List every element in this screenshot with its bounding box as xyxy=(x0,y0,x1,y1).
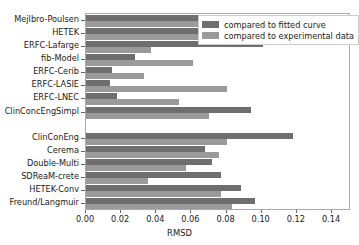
y-tick-label: HETEK xyxy=(0,28,79,37)
bar-experimental xyxy=(86,113,209,119)
chart-legend: compared to fitted curve compared to exp… xyxy=(198,15,359,45)
bar-group xyxy=(86,178,350,184)
x-tick-label: 0.02 xyxy=(100,214,140,224)
y-tick-label: Mejlbro-Poulsen xyxy=(0,15,79,24)
bar-group xyxy=(86,152,350,158)
bar-experimental xyxy=(86,139,227,145)
bar-experimental xyxy=(86,73,144,79)
bar-group xyxy=(86,191,350,197)
legend-swatch-experimental-icon xyxy=(202,32,219,39)
x-tick-mark xyxy=(226,210,227,213)
x-tick-mark xyxy=(85,210,86,213)
y-tick-label: ERFC-Cerib xyxy=(0,67,79,76)
y-tick-label: ClinConcEngSimpl xyxy=(0,107,79,116)
bar-experimental xyxy=(86,60,193,66)
legend-entry-experimental: compared to experimental data xyxy=(202,30,354,41)
bar-experimental xyxy=(86,86,227,92)
bar-group xyxy=(86,73,350,79)
bar-group xyxy=(86,99,350,105)
bar-experimental xyxy=(86,165,186,171)
y-tick-label: ERFC-LNEC xyxy=(0,93,79,102)
bar-experimental xyxy=(86,21,216,27)
bar-group xyxy=(86,165,350,171)
legend-swatch-fitted-icon xyxy=(202,21,219,28)
y-tick-label: ClinConEng xyxy=(0,133,79,142)
y-tick-label: Freund/Langmuir xyxy=(0,198,79,207)
y-tick-label: ERFC-Lafarge xyxy=(0,41,79,50)
x-axis-title: RMSD xyxy=(0,228,359,238)
bar-experimental xyxy=(86,47,151,53)
x-tick-mark xyxy=(261,210,262,213)
y-tick-label: fib-Model xyxy=(0,54,79,63)
legend-entry-fitted: compared to fitted curve xyxy=(202,19,354,30)
bar-group xyxy=(86,47,350,53)
x-tick-label: 0.04 xyxy=(135,214,175,224)
y-tick-label: Cerema xyxy=(0,146,79,155)
y-tick-label: SDReaM-crete xyxy=(0,172,79,181)
x-tick-mark xyxy=(296,210,297,213)
x-tick-label: 0.14 xyxy=(311,214,351,224)
y-tick-label: Double-Multi xyxy=(0,159,79,168)
y-tick-label: ERFC-LASIE xyxy=(0,80,79,89)
x-tick-mark xyxy=(120,210,121,213)
x-tick-mark xyxy=(331,210,332,213)
legend-label-fitted: compared to fitted curve xyxy=(224,20,326,30)
bar-group xyxy=(86,86,350,92)
x-tick-label: 0.06 xyxy=(170,214,210,224)
x-tick-mark xyxy=(190,210,191,213)
x-tick-mark xyxy=(155,210,156,213)
rmsd-bar-chart: Mejlbro-PoulsenHETEKERFC-Lafargefib-Mode… xyxy=(0,0,359,245)
bar-experimental xyxy=(86,191,221,197)
y-tick-label: HETEK-Conv xyxy=(0,185,79,194)
bar-group xyxy=(86,204,350,210)
bar-experimental xyxy=(86,178,148,184)
x-tick-label: 0.00 xyxy=(65,214,105,224)
legend-label-experimental: compared to experimental data xyxy=(224,31,354,41)
x-tick-label: 0.10 xyxy=(241,214,281,224)
bar-group xyxy=(86,139,350,145)
bar-experimental xyxy=(86,99,179,105)
bar-experimental xyxy=(86,204,232,210)
x-tick-label: 0.12 xyxy=(276,214,316,224)
bar-group xyxy=(86,60,350,66)
bar-experimental xyxy=(86,152,219,158)
x-tick-label: 0.08 xyxy=(206,214,246,224)
bar-group xyxy=(86,113,350,119)
